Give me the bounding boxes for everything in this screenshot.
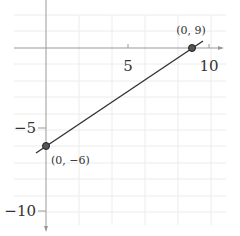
point-label: (0, 9) [176, 24, 206, 37]
x-tick-10: 10 [199, 57, 218, 75]
point-label: (0, −6) [51, 154, 90, 167]
y-tick-neg10: −10 [4, 202, 36, 220]
y-tick-neg5: −5 [14, 119, 36, 137]
x-tick-5: 5 [123, 57, 133, 75]
point-0-9: (0, 9) [176, 24, 206, 52]
coordinate-plane: 5 10 −5 −10 (0, 9) (0, −6) [0, 0, 240, 236]
